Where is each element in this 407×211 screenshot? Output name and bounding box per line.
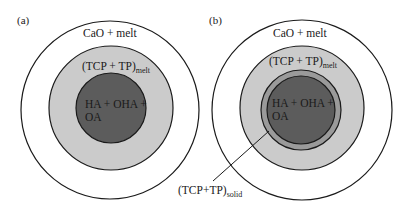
panel-b-label: (b) — [209, 14, 222, 27]
panel-a-outer-label: CaO + melt — [83, 27, 138, 39]
panel-a-core-label-line2: OA — [85, 111, 102, 123]
panel-b-outer-label: CaO + melt — [273, 27, 328, 39]
panel-a-core-label-line1: HA + OHA + — [85, 98, 147, 110]
panel-b-core-label-line2: OA — [272, 110, 289, 122]
panel-b-core-label-line1: HA + OHA + — [272, 97, 334, 109]
panel-a-label: (a) — [17, 14, 30, 27]
panel-a: (a) CaO + melt (TCP + TP)melt HA + OHA +… — [17, 14, 199, 199]
panel-b-ring-callout-label: (TCP+TP)solid — [178, 184, 242, 199]
panel-b: (b) CaO + melt (TCP + TP)melt HA + OHA +… — [178, 14, 392, 200]
phase-diagram-figure: (a) CaO + melt (TCP + TP)melt HA + OHA +… — [0, 0, 407, 211]
